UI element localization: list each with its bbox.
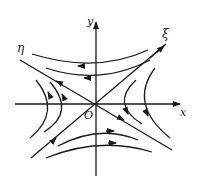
- y-axis-label: y: [86, 15, 94, 28]
- xi-separatrix: [31, 44, 166, 158]
- trajectory-top-1: [32, 50, 148, 63]
- origin-label: O: [84, 109, 93, 122]
- trajectory-left-2-arrow: [62, 94, 64, 98]
- trajectory-bottom-2: [46, 145, 152, 158]
- trajectory-right-1: [124, 80, 142, 124]
- trajectory-left-1-arrow: [48, 92, 50, 96]
- xi-label: ξ: [162, 27, 170, 41]
- eta-arrow-lower-right: [122, 119, 124, 120]
- x-axis-label: x: [180, 106, 187, 119]
- eta-arrow-upper-left: [56, 81, 58, 82]
- eta-label: η: [17, 41, 25, 55]
- phase-portrait-diagram: y x O η ξ: [0, 0, 198, 187]
- trajectory-right-2: [144, 68, 170, 138]
- trajectory-bottom-1: [58, 133, 138, 146]
- trajectory-left-1: [30, 80, 48, 138]
- xi-arrow-upper-right: [150, 46, 164, 58]
- trajectory-left-2: [44, 82, 62, 132]
- phase-portrait-svg: y x O η ξ: [0, 0, 198, 187]
